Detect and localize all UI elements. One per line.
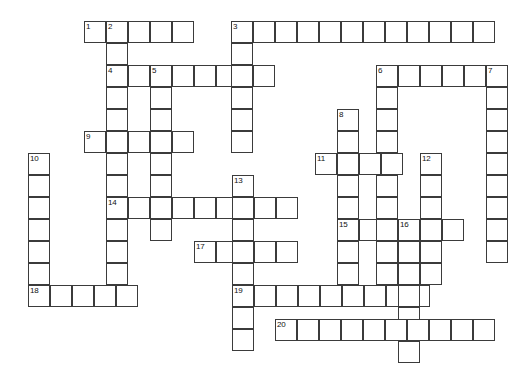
crossword-cell[interactable] (128, 65, 150, 87)
crossword-cell[interactable] (376, 175, 398, 197)
crossword-cell[interactable] (486, 131, 508, 153)
crossword-cell[interactable] (486, 153, 508, 175)
crossword-cell[interactable] (381, 153, 403, 175)
crossword-cell[interactable] (298, 285, 320, 307)
crossword-cell[interactable] (232, 219, 254, 241)
crossword-cell[interactable] (337, 219, 359, 241)
crossword-cell[interactable] (106, 21, 128, 43)
crossword-cell[interactable] (442, 219, 464, 241)
crossword-cell[interactable] (150, 65, 172, 87)
crossword-cell[interactable] (106, 65, 128, 87)
crossword-cell[interactable] (486, 219, 508, 241)
crossword-cell[interactable] (319, 21, 341, 43)
crossword-cell[interactable] (94, 285, 116, 307)
crossword-cell[interactable] (376, 263, 398, 285)
crossword-cell[interactable] (50, 285, 72, 307)
crossword-cell[interactable] (106, 131, 128, 153)
crossword-cell[interactable] (231, 21, 253, 43)
crossword-cell[interactable] (297, 21, 319, 43)
crossword-cell[interactable] (172, 21, 194, 43)
crossword-cell[interactable] (337, 153, 359, 175)
crossword-cell[interactable] (420, 219, 442, 241)
crossword-cell[interactable] (297, 319, 319, 341)
crossword-cell[interactable] (315, 153, 337, 175)
crossword-cell[interactable] (376, 241, 398, 263)
crossword-cell[interactable] (342, 285, 364, 307)
crossword-cell[interactable] (84, 131, 106, 153)
crossword-cell[interactable] (106, 219, 128, 241)
crossword-cell[interactable] (172, 197, 194, 219)
crossword-cell[interactable] (106, 241, 128, 263)
crossword-cell[interactable] (28, 175, 50, 197)
crossword-cell[interactable] (253, 65, 275, 87)
crossword-cell[interactable] (172, 131, 194, 153)
crossword-cell[interactable] (398, 341, 420, 363)
crossword-cell[interactable] (486, 241, 508, 263)
crossword-cell[interactable] (231, 131, 253, 153)
crossword-cell[interactable] (232, 307, 254, 329)
crossword-cell[interactable] (376, 219, 398, 241)
crossword-cell[interactable] (363, 21, 385, 43)
crossword-cell[interactable] (486, 109, 508, 131)
crossword-cell[interactable] (194, 241, 216, 263)
crossword-cell[interactable] (150, 197, 172, 219)
crossword-cell[interactable] (232, 263, 254, 285)
crossword-cell[interactable] (407, 21, 429, 43)
crossword-cell[interactable] (341, 319, 363, 341)
crossword-cell[interactable] (420, 263, 442, 285)
crossword-cell[interactable] (420, 241, 442, 263)
crossword-cell[interactable] (275, 21, 297, 43)
crossword-cell[interactable] (150, 21, 172, 43)
crossword-cell[interactable] (398, 263, 420, 285)
crossword-cell[interactable] (150, 175, 172, 197)
crossword-cell[interactable] (150, 109, 172, 131)
crossword-cell[interactable] (407, 319, 429, 341)
crossword-cell[interactable] (451, 319, 473, 341)
crossword-cell[interactable] (486, 65, 508, 87)
crossword-cell[interactable] (376, 197, 398, 219)
crossword-cell[interactable] (231, 109, 253, 131)
crossword-cell[interactable] (337, 131, 359, 153)
crossword-cell[interactable] (232, 285, 254, 307)
crossword-cell[interactable] (150, 153, 172, 175)
crossword-cell[interactable] (128, 197, 150, 219)
crossword-cell[interactable] (420, 197, 442, 219)
crossword-cell[interactable] (398, 65, 420, 87)
crossword-cell[interactable] (106, 197, 128, 219)
crossword-cell[interactable] (337, 263, 359, 285)
crossword-cell[interactable] (106, 153, 128, 175)
crossword-cell[interactable] (128, 21, 150, 43)
crossword-cell[interactable] (359, 153, 381, 175)
crossword-cell[interactable] (28, 197, 50, 219)
crossword-cell[interactable] (276, 285, 298, 307)
crossword-cell[interactable] (429, 319, 451, 341)
crossword-cell[interactable] (420, 175, 442, 197)
crossword-cell[interactable] (486, 87, 508, 109)
crossword-cell[interactable] (364, 285, 386, 307)
crossword-cell[interactable] (464, 65, 486, 87)
crossword-cell[interactable] (276, 241, 298, 263)
crossword-cell[interactable] (276, 197, 298, 219)
crossword-cell[interactable] (486, 197, 508, 219)
crossword-cell[interactable] (254, 197, 276, 219)
crossword-cell[interactable] (116, 285, 138, 307)
crossword-cell[interactable] (376, 109, 398, 131)
crossword-cell[interactable] (398, 219, 420, 241)
crossword-cell[interactable] (398, 285, 420, 307)
crossword-cell[interactable] (72, 285, 94, 307)
crossword-cell[interactable] (106, 175, 128, 197)
crossword-cell[interactable] (253, 21, 275, 43)
crossword-cell[interactable] (376, 131, 398, 153)
crossword-cell[interactable] (398, 241, 420, 263)
crossword-cell[interactable] (231, 65, 253, 87)
crossword-cell[interactable] (275, 319, 297, 341)
crossword-cell[interactable] (231, 87, 253, 109)
crossword-cell[interactable] (172, 65, 194, 87)
crossword-cell[interactable] (337, 109, 359, 131)
crossword-cell[interactable] (150, 87, 172, 109)
crossword-cell[interactable] (28, 285, 50, 307)
crossword-cell[interactable] (486, 175, 508, 197)
crossword-cell[interactable] (106, 43, 128, 65)
crossword-cell[interactable] (254, 285, 276, 307)
crossword-cell[interactable] (420, 65, 442, 87)
